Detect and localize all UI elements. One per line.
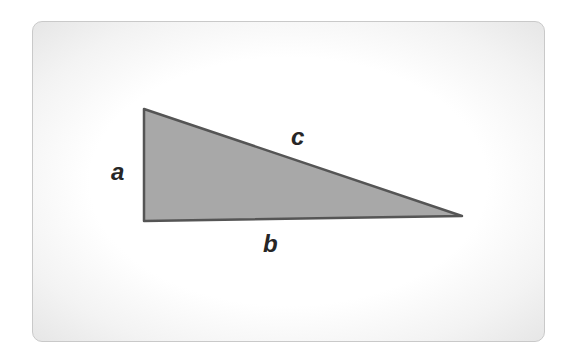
triangle-diagram bbox=[0, 0, 570, 363]
side-label-a: a bbox=[111, 160, 124, 184]
side-label-c: c bbox=[291, 125, 304, 149]
side-label-b: b bbox=[263, 232, 278, 256]
